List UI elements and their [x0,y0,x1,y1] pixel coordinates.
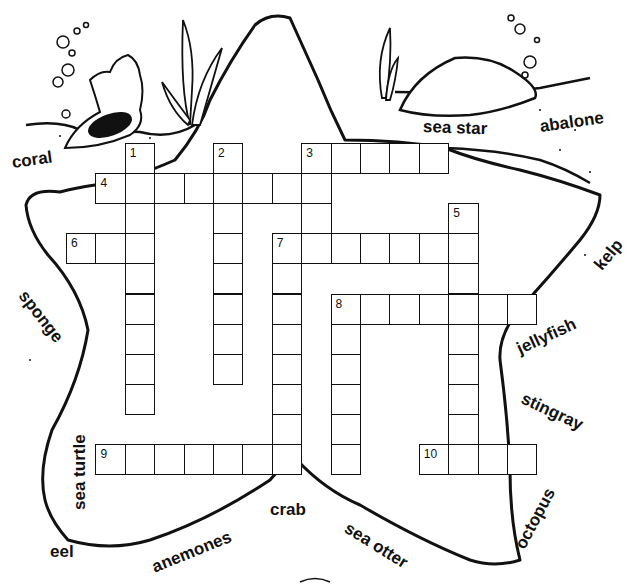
crossword-cell[interactable] [331,324,361,355]
crossword-cell[interactable] [213,444,243,475]
crossword-cell[interactable] [448,294,478,325]
clue-number: 2 [218,146,225,160]
crossword-cell[interactable] [478,294,508,325]
crossword-cell[interactable] [331,354,361,385]
crossword-cell[interactable]: 9 [95,444,125,475]
crossword-cell[interactable] [448,444,478,475]
crossword-cell[interactable] [331,233,361,264]
crossword-cell[interactable]: 4 [95,173,125,204]
crossword-cell[interactable] [389,294,419,325]
clue-number: 8 [336,297,343,311]
crossword-cell[interactable] [507,294,537,325]
crossword-cell[interactable] [125,324,155,355]
crossword-cell[interactable] [125,173,155,204]
crossword-cell[interactable] [213,263,243,294]
clue-number: 3 [306,146,313,160]
crossword-cell[interactable]: 5 [448,203,478,234]
crossword-cell[interactable] [301,173,331,204]
crossword-cell[interactable]: 8 [331,294,361,325]
crossword-cell[interactable] [360,233,390,264]
crossword-cell[interactable] [301,233,331,264]
crossword-cell[interactable] [272,324,302,355]
crossword-cell[interactable] [272,294,302,325]
crossword-cell[interactable] [125,354,155,385]
crossword-cell[interactable] [184,444,214,475]
crossword-cell[interactable] [419,143,449,174]
crossword-cell[interactable] [301,203,331,234]
crossword-cell[interactable]: 6 [66,233,96,264]
clue-number: 4 [100,176,107,190]
crossword-cell[interactable] [213,324,243,355]
crossword-cell[interactable] [125,233,155,264]
crossword-cell[interactable] [448,414,478,445]
clue-number: 9 [100,447,107,461]
crossword-cell[interactable] [448,263,478,294]
crossword-cell[interactable] [125,203,155,234]
crossword-cell[interactable] [448,354,478,385]
crossword-cell[interactable] [242,444,272,475]
crossword-cell[interactable] [389,233,419,264]
crossword-cell[interactable] [184,173,214,204]
word-bank-item: eel [50,542,74,562]
crossword-cell[interactable] [213,233,243,264]
clue-number: 6 [71,236,78,250]
clue-number: 1 [130,146,137,160]
word-bank-item: sea star [423,117,488,139]
crossword-cell[interactable] [331,444,361,475]
clue-number: 10 [424,447,437,461]
crossword-cell[interactable] [242,173,272,204]
crossword-cell[interactable] [95,233,125,264]
crossword-cell[interactable] [419,233,449,264]
crossword-cell[interactable] [154,173,184,204]
crossword-cell[interactable] [272,384,302,415]
crossword-cell[interactable] [213,354,243,385]
clue-number: 5 [453,206,460,220]
crossword-cell[interactable] [125,384,155,415]
crossword-cell[interactable] [448,384,478,415]
crossword-cell[interactable] [331,384,361,415]
crossword-cell[interactable] [419,294,449,325]
crossword-cell[interactable] [213,294,243,325]
crossword-cell[interactable] [448,324,478,355]
crossword-cell[interactable] [125,263,155,294]
crossword-cell[interactable] [331,143,361,174]
crossword-cell[interactable]: 1 [125,143,155,174]
crossword-cell[interactable] [213,173,243,204]
crossword-cell[interactable]: 3 [301,143,331,174]
crossword-cell[interactable] [125,444,155,475]
crossword-cell[interactable] [448,233,478,264]
crossword-cell[interactable]: 10 [419,444,449,475]
crossword-cell[interactable] [272,263,302,294]
crossword-cell[interactable] [389,143,419,174]
word-bank-item: crab [270,500,306,520]
crossword-cell[interactable] [360,143,390,174]
crossword-cell[interactable]: 7 [272,233,302,264]
crossword-cell[interactable] [213,203,243,234]
crossword-cell[interactable] [272,173,302,204]
clue-number: 7 [277,236,284,250]
crossword-cell[interactable] [154,444,184,475]
crossword-cell[interactable] [478,444,508,475]
word-bank-item: sea turtle [70,434,90,510]
crossword-cell[interactable] [360,294,390,325]
crossword-cell[interactable]: 2 [213,143,243,174]
crossword-cell[interactable] [331,414,361,445]
crossword-cell[interactable] [272,414,302,445]
crossword-cell[interactable] [272,444,302,475]
crossword-cell[interactable] [272,354,302,385]
crossword-cell[interactable] [125,294,155,325]
crossword-cell[interactable] [507,444,537,475]
